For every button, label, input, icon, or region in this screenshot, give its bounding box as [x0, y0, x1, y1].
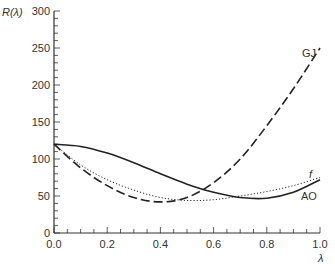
y-tick-label: 150 [32, 116, 50, 128]
line-chart: 0501001502002503000.00.20.40.60.81.0λR(λ… [0, 0, 335, 269]
series-ao-line [54, 144, 320, 198]
x-tick-label: 0.6 [206, 238, 221, 250]
series-f-line [54, 144, 320, 200]
series-gj-line [54, 48, 320, 202]
x-tick-label: 0.4 [153, 238, 168, 250]
y-tick-label: 250 [32, 42, 50, 54]
x-tick-label: 0.8 [259, 238, 274, 250]
x-tick-label: 1.0 [312, 238, 327, 250]
y-tick-label: 200 [32, 79, 50, 91]
x-tick-label: 0.2 [100, 238, 115, 250]
x-tick-label: 0.0 [46, 238, 61, 250]
y-tick-label: 100 [32, 153, 50, 165]
series-label-ao: AO [301, 190, 317, 202]
series-label-f: f [309, 168, 313, 180]
y-tick-label: 50 [38, 190, 50, 202]
x-axis-label: λ [317, 252, 323, 264]
y-tick-label: 300 [32, 5, 50, 17]
y-axis-label: R(λ) [2, 6, 23, 18]
series-label-gj: GJ [302, 47, 316, 59]
